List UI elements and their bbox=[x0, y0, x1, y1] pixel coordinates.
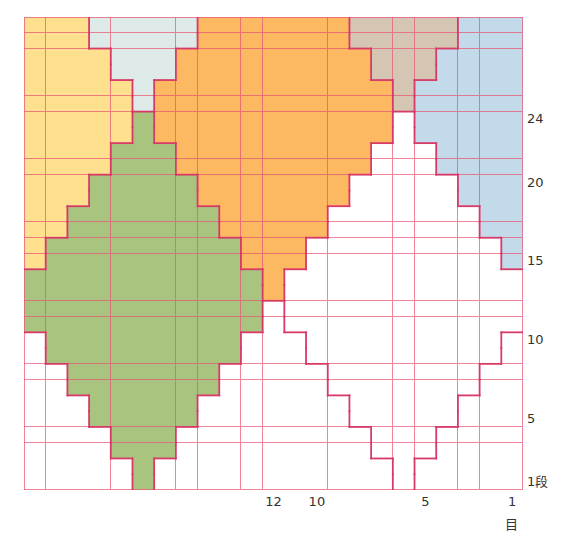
chart-cell-white-background bbox=[480, 411, 502, 427]
chart-cell-white-background bbox=[480, 364, 502, 380]
chart-cell-yellow bbox=[67, 49, 89, 65]
chart-cell-white-background bbox=[67, 411, 89, 427]
chart-cell-orange bbox=[306, 143, 328, 159]
chart-cell-green bbox=[219, 238, 241, 254]
chart-cell-white-background bbox=[415, 474, 437, 490]
chart-cell-white-diamond bbox=[328, 317, 350, 333]
chart-cell-orange bbox=[241, 112, 263, 128]
chart-cell-orange bbox=[241, 190, 263, 206]
chart-cell-green bbox=[219, 269, 241, 285]
chart-cell-orange bbox=[284, 64, 306, 80]
chart-cell-white-diamond bbox=[393, 190, 415, 206]
chart-cell-white-background bbox=[46, 411, 68, 427]
chart-cell-white-background bbox=[198, 474, 220, 490]
chart-cell-white-background bbox=[46, 364, 68, 380]
chart-cell-green bbox=[111, 380, 133, 396]
chart-cell-orange bbox=[219, 80, 241, 96]
chart-cell-white-background bbox=[219, 474, 241, 490]
chart-cell-white-background bbox=[306, 364, 328, 380]
chart-cell-orange bbox=[241, 96, 263, 112]
chart-cell-white-diamond bbox=[415, 222, 437, 238]
chart-cell-white-background bbox=[154, 458, 176, 474]
chart-cell-white-diamond bbox=[328, 222, 350, 238]
chart-cell-green bbox=[132, 159, 154, 175]
chart-cell-white-background bbox=[284, 395, 306, 411]
chart-cell-green bbox=[219, 348, 241, 364]
chart-cell-orange bbox=[154, 127, 176, 143]
chart-cell-green bbox=[132, 317, 154, 333]
chart-cell-green bbox=[132, 332, 154, 348]
chart-cell-orange bbox=[263, 80, 285, 96]
chart-cell-white-background bbox=[349, 474, 371, 490]
row-label: 10 bbox=[527, 333, 544, 347]
chart-cell-white-diamond bbox=[415, 269, 437, 285]
chart-cell-green bbox=[67, 380, 89, 396]
chart-cell-green bbox=[46, 285, 68, 301]
chart-cell-green bbox=[67, 254, 89, 270]
chart-cell-orange bbox=[306, 159, 328, 175]
chart-cell-white-diamond bbox=[393, 411, 415, 427]
chart-cell-orange bbox=[284, 127, 306, 143]
chart-cell-white-background bbox=[24, 427, 46, 443]
chart-cell-orange bbox=[198, 64, 220, 80]
chart-cell-white-diamond bbox=[284, 301, 306, 317]
chart-cell-white-background bbox=[241, 427, 263, 443]
chart-cell-light-blue bbox=[501, 254, 523, 270]
chart-cell-taupe bbox=[371, 49, 393, 65]
chart-cell-green bbox=[24, 301, 46, 317]
row-label: 1段 bbox=[527, 475, 548, 489]
chart-cell-taupe bbox=[371, 17, 393, 33]
chart-cell-light-blue bbox=[458, 49, 480, 65]
chart-cell-taupe bbox=[393, 64, 415, 80]
chart-cell-green bbox=[198, 380, 220, 396]
chart-cell-white-diamond bbox=[328, 285, 350, 301]
chart-cell-light-blue bbox=[480, 49, 502, 65]
chart-cell-white-diamond bbox=[436, 380, 458, 396]
chart-cell-white-diamond bbox=[393, 301, 415, 317]
chart-cell-green bbox=[176, 238, 198, 254]
chart-cell-green bbox=[67, 348, 89, 364]
chart-cell-white-background bbox=[46, 443, 68, 459]
chart-cell-orange bbox=[198, 80, 220, 96]
chart-cell-green bbox=[154, 190, 176, 206]
chart-cell-orange bbox=[198, 33, 220, 49]
chart-cell-white-diamond bbox=[371, 411, 393, 427]
chart-cell-green bbox=[111, 238, 133, 254]
chart-cell-orange bbox=[328, 175, 350, 191]
chart-cell-light-blue bbox=[458, 64, 480, 80]
chart-cell-green bbox=[176, 301, 198, 317]
chart-cell-white-background bbox=[458, 443, 480, 459]
chart-cell-orange bbox=[198, 159, 220, 175]
chart-cell-light-blue bbox=[458, 127, 480, 143]
row-label: 15 bbox=[527, 254, 544, 268]
chart-cell-green bbox=[154, 269, 176, 285]
chart-cell-green bbox=[132, 427, 154, 443]
chart-cell-yellow bbox=[89, 127, 111, 143]
chart-cell-green bbox=[46, 238, 68, 254]
chart-cell-green bbox=[198, 222, 220, 238]
chart-cell-orange bbox=[306, 190, 328, 206]
chart-cell-white-diamond bbox=[371, 206, 393, 222]
chart-cell-green bbox=[198, 301, 220, 317]
chart-cell-white-background bbox=[328, 458, 350, 474]
chart-cell-orange bbox=[328, 49, 350, 65]
chart-cell-white-diamond bbox=[436, 411, 458, 427]
chart-cell-green bbox=[154, 222, 176, 238]
chart-cell-orange bbox=[263, 96, 285, 112]
chart-cell-green bbox=[111, 159, 133, 175]
chart-cell-white-diamond bbox=[393, 395, 415, 411]
chart-cell-white-diamond bbox=[371, 254, 393, 270]
chart-cell-white-diamond bbox=[371, 269, 393, 285]
chart-cell-white-background bbox=[501, 411, 523, 427]
chart-cell-green bbox=[132, 458, 154, 474]
chart-cell-white-diamond bbox=[393, 380, 415, 396]
chart-cell-white-diamond bbox=[458, 206, 480, 222]
chart-cell-white-diamond bbox=[415, 301, 437, 317]
chart-cell-orange bbox=[328, 143, 350, 159]
chart-cell-orange bbox=[241, 49, 263, 65]
chart-cell-white-diamond bbox=[458, 348, 480, 364]
chart-cell-green bbox=[176, 317, 198, 333]
chart-cell-white-diamond bbox=[393, 443, 415, 459]
chart-cell-light-blue bbox=[458, 190, 480, 206]
chart-cell-white-background bbox=[241, 395, 263, 411]
